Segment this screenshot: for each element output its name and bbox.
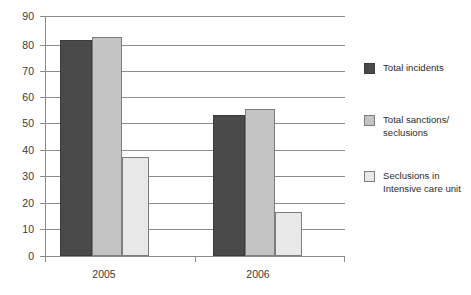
x-tick-right-edge [344, 256, 345, 262]
y-tick-label-40: 40 [22, 145, 34, 155]
y-tick-label-10: 10 [22, 224, 34, 234]
legend-label-seclusions-icu: Seclusions in Intensive care unit [383, 170, 461, 195]
y-axis-tick-labels: 90 80 70 60 50 40 30 20 10 0 [0, 0, 38, 295]
bar-chart: 90 80 70 60 50 40 30 20 10 0 [0, 0, 471, 295]
bar-2006-total-sanctions-seclusions [245, 109, 275, 256]
legend-swatch-icon-total-incidents [364, 63, 375, 74]
legend-swatch-icon-total-sanctions-seclusions [364, 115, 375, 126]
x-tick-label-2005: 2005 [92, 268, 115, 280]
bar-2005-total-incidents [60, 40, 92, 256]
bar-2005-seclusions-icu [122, 157, 149, 256]
y-tick-label-80: 80 [22, 40, 34, 50]
x-tick-group-split [195, 256, 196, 262]
y-tick-label-20: 20 [22, 198, 34, 208]
plot-area: 90 80 70 60 50 40 30 20 10 0 [0, 0, 360, 295]
legend-label-total-sanctions-seclusions: Total sanctions/ seclusions [383, 114, 449, 139]
y-tick-label-0: 0 [28, 251, 34, 261]
bar-2005-total-sanctions-seclusions [92, 37, 122, 256]
y-tick-label-50: 50 [22, 118, 34, 128]
y-axis-line [45, 16, 46, 257]
legend-item-seclusions-icu[interactable]: Seclusions in Intensive care unit [364, 170, 461, 195]
y-tick-label-90: 90 [22, 11, 34, 21]
legend-label-total-incidents: Total incidents [383, 62, 444, 75]
bar-2006-seclusions-icu [275, 212, 302, 256]
legend-swatch-icon-seclusions-icu [364, 171, 375, 182]
legend-item-total-sanctions-seclusions[interactable]: Total sanctions/ seclusions [364, 114, 449, 139]
x-tick-left-edge [45, 256, 46, 262]
y-tick-label-60: 60 [22, 92, 34, 102]
legend-item-total-incidents[interactable]: Total incidents [364, 62, 444, 75]
x-tick-label-2006: 2006 [246, 268, 269, 280]
bar-2006-total-incidents [213, 115, 245, 256]
y-tick-label-30: 30 [22, 171, 34, 181]
y-tick-label-70: 70 [22, 66, 34, 76]
gridline-90 [45, 16, 345, 17]
